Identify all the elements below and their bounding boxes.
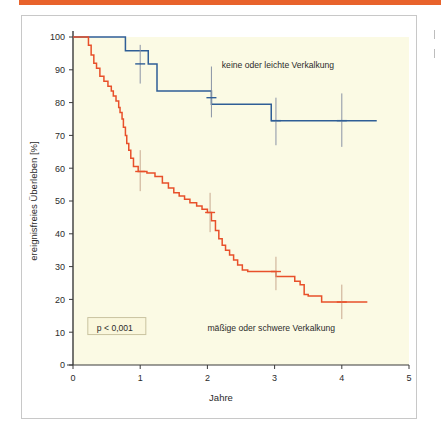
chart-container: 0102030405060708090100012345Jahreereigni… bbox=[21, 15, 417, 419]
y-axis-tick-label: 80 bbox=[55, 98, 65, 108]
y-axis-tick-label: 60 bbox=[55, 164, 65, 174]
series-annotation-label: mäßige oder schwere Verkalkung bbox=[207, 323, 335, 333]
x-axis-title: Jahre bbox=[209, 392, 233, 403]
series-annotation-label: keine oder leichte Verkalkung bbox=[222, 60, 334, 70]
y-axis-tick-label: 90 bbox=[55, 65, 65, 75]
x-axis-tick-label: 1 bbox=[138, 373, 143, 383]
y-axis-tick-label: 10 bbox=[55, 328, 65, 338]
top-accent-band bbox=[19, 0, 441, 5]
x-axis-tick-label: 5 bbox=[406, 373, 411, 383]
y-axis-tick-label: 50 bbox=[55, 196, 65, 206]
y-axis-tick-label: 100 bbox=[50, 32, 65, 42]
y-axis-title: ereignisfreies Überleben [%] bbox=[28, 141, 39, 260]
x-axis-tick-label: 4 bbox=[339, 373, 344, 383]
y-axis-tick-label: 70 bbox=[55, 131, 65, 141]
plot-background bbox=[73, 37, 409, 365]
p-value-label: p < 0,001 bbox=[97, 323, 133, 333]
y-axis-tick-label: 0 bbox=[60, 360, 65, 370]
y-axis-tick-label: 40 bbox=[55, 229, 65, 239]
y-axis-tick-label: 30 bbox=[55, 262, 65, 272]
y-axis-tick-label: 20 bbox=[55, 295, 65, 305]
page-bleed-mark-upper bbox=[434, 30, 435, 39]
x-axis-tick-label: 3 bbox=[272, 373, 277, 383]
x-axis-tick-label: 2 bbox=[205, 373, 210, 383]
figure-page: 0102030405060708090100012345Jahreereigni… bbox=[0, 0, 441, 433]
kaplan-meier-chart: 0102030405060708090100012345Jahreereigni… bbox=[21, 15, 417, 419]
page-bleed-mark-lower bbox=[434, 49, 435, 58]
x-axis-tick-label: 0 bbox=[70, 373, 75, 383]
